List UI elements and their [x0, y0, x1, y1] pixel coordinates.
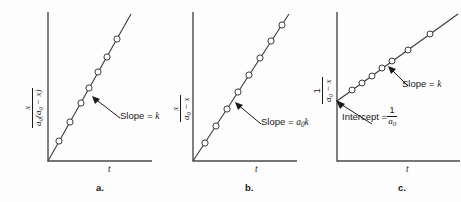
panel-b: x a0 − x Slope = a0k t b.	[145, 0, 300, 202]
panel-c-y-numerator: 1	[312, 78, 322, 105]
panel-b-slope-leader	[235, 102, 261, 124]
panel-b-trendline	[193, 14, 289, 161]
panel-b-axes	[193, 12, 297, 161]
panel-a-letter: a.	[96, 182, 104, 193]
panel-a: x a0(a0 − x) Slope = k t a.	[0, 0, 155, 202]
panel-a-data-points	[56, 36, 120, 144]
panel-c: 1 a0 − x Slope = k Intercept = 1a0 t c.	[290, 0, 461, 202]
panel-c-x-axis-label: t	[406, 164, 409, 174]
kinetics-figure: x a0(a0 − x) Slope = k t a.	[0, 0, 461, 202]
panel-c-slope-annotation: Slope = k	[402, 79, 441, 90]
panel-b-x-axis-label: t	[255, 164, 258, 174]
panel-a-axes	[48, 12, 152, 161]
panel-b-letter: b.	[245, 182, 253, 193]
panel-b-y-denominator: a0 − x	[180, 96, 193, 123]
panel-a-x-axis-label: t	[108, 164, 111, 174]
panel-c-y-denominator: a0 − x	[322, 78, 335, 105]
panel-a-y-numerator: x	[22, 88, 32, 128]
panel-a-slope-leader	[92, 96, 120, 118]
panel-b-plot	[145, 0, 300, 202]
panel-b-y-axis-label: x a0 − x	[170, 96, 193, 123]
panel-a-y-axis-label: x a0(a0 − x)	[22, 88, 45, 128]
panel-c-intercept-numerator: 1	[387, 106, 397, 116]
panel-c-letter: c.	[398, 182, 406, 193]
panel-c-axes	[337, 12, 460, 161]
panel-a-y-denominator: a0(a0 − x)	[32, 88, 45, 128]
panel-c-intercept-denominator: a0	[387, 116, 397, 127]
panel-b-y-numerator: x	[170, 96, 180, 123]
panel-c-y-axis-label: 1 a0 − x	[312, 78, 335, 105]
panel-c-intercept-annotation: Intercept = 1a0	[342, 106, 397, 127]
